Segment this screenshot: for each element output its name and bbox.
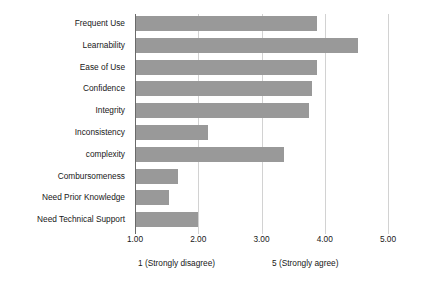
scale-caption-low: 1 (Strongly disagree): [138, 258, 215, 268]
value-axis-tick-labels: 1.002.003.004.005.00: [0, 234, 421, 250]
category-label: Frequent Use: [75, 16, 125, 31]
bar: [135, 103, 309, 118]
value-tick-label: 5.00: [368, 234, 408, 244]
category-label: Inconsistency: [75, 125, 125, 140]
category-label: complexity: [86, 147, 125, 162]
bar: [135, 190, 169, 205]
axis-captions: 1 (Strongly disagree) 5 (Strongly agree): [0, 258, 421, 274]
bar: [135, 60, 317, 75]
category-label: Integrity: [95, 103, 125, 118]
category-label: Ease of Use: [80, 60, 125, 75]
value-tick-label: 1.00: [115, 234, 155, 244]
value-tick-label: 4.00: [305, 234, 345, 244]
bar-chart: Frequent UseLearnabilityEase of UseConfi…: [0, 0, 421, 287]
bar: [135, 125, 208, 140]
category-label: Learnability: [83, 38, 125, 53]
bar: [135, 81, 312, 96]
category-label: Combursomeness: [58, 169, 125, 184]
category-label: Need Prior Knowledge: [42, 190, 125, 205]
bar: [135, 169, 178, 184]
bar: [135, 147, 284, 162]
value-axis-line: [135, 14, 136, 234]
bar: [135, 38, 358, 53]
value-tick-label: 2.00: [178, 234, 218, 244]
scale-caption-high: 5 (Strongly agree): [272, 258, 338, 268]
bar: [135, 212, 198, 227]
bar: [135, 16, 317, 31]
category-label: Confidence: [83, 81, 125, 96]
gridline: [388, 14, 389, 234]
category-axis: Frequent UseLearnabilityEase of UseConfi…: [0, 14, 130, 232]
plot-area: [135, 14, 388, 234]
value-tick-label: 3.00: [242, 234, 282, 244]
category-label: Need Technical Support: [37, 212, 125, 227]
